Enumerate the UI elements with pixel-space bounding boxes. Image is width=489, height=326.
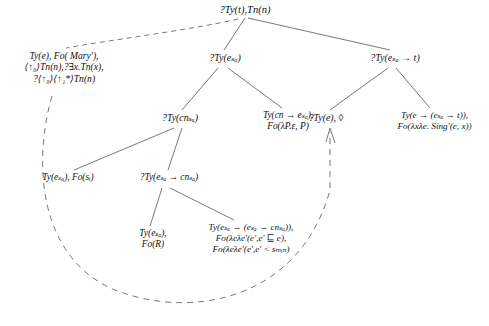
node-ty-e-diamond: ?Ty(e), ◊: [296, 112, 356, 124]
edge-mid-cn: [182, 68, 218, 110]
node-big-formula-line3: Fo(λeλe'(e',e' < sₘᵢₙ): [178, 244, 324, 255]
node-root: ?Ty(t),Tn(n): [170, 4, 320, 16]
edge-root-left-dashed: [66, 19, 238, 48]
edge-right-tye: [330, 68, 388, 110]
edge-cn-esacn: [168, 128, 182, 170]
node-big-formula-line1: Ty(eₛₐ → (eₛₐ → cnₛₐ)),: [178, 222, 324, 233]
node-left-mary: Ty(e), Fo( Mary'), ⟨↑₀⟩Tn(n),?∃x.Tn(x), …: [0, 50, 128, 84]
tree-edges: [0, 0, 489, 326]
node-ty-esa: ?Ty(eₛₐ): [175, 52, 275, 64]
node-ty-esa-t-line1: ?Ty(eₛₐ → t): [330, 52, 460, 64]
node-left-line1: Ty(e), Fo( Mary'),: [0, 50, 128, 61]
node-ty-cnsa-line1: ?Ty(cnₛₐ): [130, 112, 230, 124]
node-big-formula-line2: Fo(λeλe'(e',e' ⊑ e),: [178, 233, 324, 244]
node-ty-e-diamond-line1: ?Ty(e), ◊: [296, 112, 356, 124]
node-esa-cnsa: ?Ty(eₛₐ → cnₛₐ): [114, 172, 224, 183]
diagram-canvas: ?Ty(t),Tn(n) Ty(e), Fo( Mary'), ⟨↑₀⟩Tn(n…: [0, 0, 489, 326]
edge-mid-epsilon: [228, 68, 282, 108]
node-big-formula: Ty(eₛₐ → (eₛₐ → cnₛₐ)), Fo(λeλe'(e',e' ⊑…: [178, 222, 324, 255]
edge-esacn-for: [150, 188, 162, 226]
edge-esacn-big: [170, 188, 234, 220]
edge-root-mid: [224, 18, 245, 50]
edge-cn-esas: [74, 128, 174, 170]
edge-right-sing: [396, 68, 430, 108]
node-root-line1: ?Ty(t),Tn(n): [170, 4, 320, 16]
node-sing-line1: Ty(e → (eₛₐ → t)),: [380, 110, 489, 121]
node-ty-esa-line1: ?Ty(eₛₐ): [175, 52, 275, 64]
node-sing: Ty(e → (eₛₐ → t)), Fo(λxλe. Sing'(e, x)): [380, 110, 489, 132]
node-esa-si: Ty(eₛₐ), Fo(sᵢ): [18, 172, 118, 183]
node-left-line2: ⟨↑₀⟩Tn(n),?∃x.Tn(x),: [0, 61, 128, 72]
node-ty-esa-t: ?Ty(eₛₐ → t): [330, 52, 460, 64]
node-sing-line2: Fo(λxλe. Sing'(e, x)): [380, 121, 489, 132]
node-ty-cnsa: ?Ty(cnₛₐ): [130, 112, 230, 124]
node-left-line3: ?⟨↑₀⟩⟨↑₁*⟩Tn(n): [0, 73, 128, 84]
node-esa-si-line1: Ty(eₛₐ), Fo(sᵢ): [18, 172, 118, 183]
node-esa-cnsa-line1: ?Ty(eₛₐ → cnₛₐ): [114, 172, 224, 183]
edge-root-right: [248, 18, 390, 50]
